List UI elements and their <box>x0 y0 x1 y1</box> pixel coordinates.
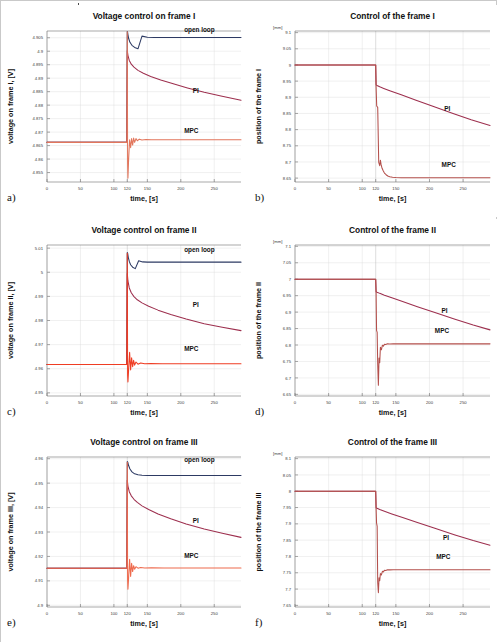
x-tick-label: 100 <box>359 186 367 191</box>
y-tick-label: 7.1 <box>285 244 291 249</box>
y-axis-label: voltage on frame I, [V] <box>6 69 15 144</box>
x-tick-label: 200 <box>426 186 434 191</box>
x-tick-label: 200 <box>426 611 434 616</box>
curve-label-MPC: MPC <box>184 345 199 352</box>
x-tick-label: 50 <box>326 611 331 616</box>
x-tick-label: 100 <box>359 400 367 405</box>
subplot-title: Control of the frame I <box>350 11 435 21</box>
y-tick-label: 4.88 <box>35 103 44 108</box>
y-tick-label: 4.93 <box>35 530 44 535</box>
x-axis-label: time, [s] <box>379 408 407 417</box>
y-tick-label: 9.1 <box>285 30 291 35</box>
x-tick-label: 120 <box>372 611 380 616</box>
x-tick-label: 250 <box>460 611 468 616</box>
y-tick-label: 4.98 <box>35 318 44 323</box>
x-tick-label: 250 <box>211 186 219 191</box>
x-tick-label: 200 <box>177 400 185 405</box>
y-axis-label: voltage on frame III, [V] <box>6 492 15 571</box>
subplot-c: c)Voltage control on frame II4.954.964.9… <box>1 219 249 431</box>
x-tick-label: 100 <box>110 400 118 405</box>
subplot-title: Control of the frame III <box>348 437 437 447</box>
y-unit-label: [mm] <box>273 25 282 30</box>
y-tick-label: 4.99 <box>35 294 44 299</box>
panel-letter: f) <box>255 616 262 628</box>
curve-label-MPC: MPC <box>436 553 451 560</box>
subplot-title: Voltage control on frame I <box>93 11 196 21</box>
y-tick-label: 8.65 <box>283 176 292 181</box>
y-tick-label: 4.96 <box>35 456 44 461</box>
panel-letter: c) <box>7 405 16 417</box>
x-axis-label: time, [s] <box>379 194 407 203</box>
x-tick-label: 250 <box>460 186 468 191</box>
x-tick-label: 50 <box>78 186 83 191</box>
y-tick-label: 7.75 <box>283 570 292 575</box>
subplot-d: d)Control of the frame II6.656.76.756.86… <box>249 219 497 431</box>
y-axis-label: position of the frame III <box>254 492 263 571</box>
curve-label-PI: PI <box>444 105 450 112</box>
x-axis-label: time, [s] <box>130 408 158 417</box>
y-tick-label: 4.95 <box>35 481 44 486</box>
x-tick-label: 150 <box>144 400 152 405</box>
curve-label-PI: PI <box>193 517 199 524</box>
subplot-title: Control of the frame II <box>349 225 436 235</box>
x-tick-label: 150 <box>392 400 400 405</box>
x-tick-label: 120 <box>124 400 132 405</box>
x-tick-label: 100 <box>359 611 367 616</box>
y-tick-label: 4.865 <box>33 143 44 148</box>
subplot-f: f)Control of the frame III7.657.77.757.8… <box>249 431 497 642</box>
x-tick-label: 150 <box>144 611 152 616</box>
y-unit-label: [mm] <box>273 451 282 456</box>
panel-letter: b) <box>255 191 264 203</box>
y-tick-label: 4.895 <box>33 62 44 67</box>
curve-label-PI: PI <box>193 87 199 94</box>
subplot-e: e)Voltage control on frame III4.94.914.9… <box>1 431 249 642</box>
y-tick-label: 4.9 <box>37 603 43 608</box>
y-axis-label: position of the frame II <box>254 282 263 359</box>
x-tick-label: 200 <box>177 186 185 191</box>
y-axis-label: position of the frame I <box>254 69 263 144</box>
curve-label-open-loop: open loop <box>184 246 215 254</box>
curve-label-MPC: MPC <box>442 161 457 168</box>
x-tick-label: 150 <box>392 186 400 191</box>
x-tick-label: 250 <box>211 400 219 405</box>
y-tick-label: 4.87 <box>35 130 44 135</box>
y-tick-label: 4.9 <box>37 49 43 54</box>
curve-label-MPC: MPC <box>184 552 199 559</box>
y-tick-label: 8.85 <box>283 111 292 116</box>
x-tick-label: 150 <box>392 611 400 616</box>
y-tick-label: 5.01 <box>35 246 44 251</box>
y-tick-label: 4.885 <box>33 89 44 94</box>
curve-label-PI: PI <box>443 534 449 541</box>
y-tick-label: 6.85 <box>283 326 292 331</box>
y-tick-label: 6.75 <box>283 359 292 364</box>
curve-label-PI: PI <box>193 301 199 308</box>
x-tick-label: 120 <box>372 400 380 405</box>
curve-label-PI: PI <box>442 307 448 314</box>
y-tick-label: 8.1 <box>285 456 291 461</box>
y-tick-label: 4.97 <box>35 342 44 347</box>
y-tick-label: 7.95 <box>283 505 292 510</box>
x-tick-label: 100 <box>110 611 118 616</box>
y-tick-label: 8.9 <box>285 95 291 100</box>
x-axis-label: time, [s] <box>379 619 407 628</box>
y-tick-label: 4.96 <box>35 366 44 371</box>
y-tick-label: 7.85 <box>283 538 292 543</box>
panel-letter: d) <box>255 405 264 417</box>
curve-label-open-loop: open loop <box>184 26 215 34</box>
y-tick-label: 4.94 <box>35 505 44 510</box>
panel-letter: e) <box>7 616 16 628</box>
y-tick-label: 4.92 <box>35 554 44 559</box>
y-tick-label: 4.905 <box>33 35 44 40</box>
y-tick-label: 8.7 <box>285 160 291 165</box>
x-tick-label: 150 <box>144 186 152 191</box>
y-tick-label: 4.86 <box>35 157 44 162</box>
y-tick-label: 4.855 <box>33 170 44 175</box>
y-tick-label: 8.8 <box>285 127 291 132</box>
y-tick-label: 8.95 <box>283 79 292 84</box>
x-tick-label: 50 <box>78 400 83 405</box>
y-tick-label: 6.7 <box>285 376 291 381</box>
x-tick-label: 200 <box>177 611 185 616</box>
y-tick-label: 4.91 <box>35 578 44 583</box>
x-tick-label: 50 <box>326 400 331 405</box>
y-unit-label: [mm] <box>273 239 282 244</box>
